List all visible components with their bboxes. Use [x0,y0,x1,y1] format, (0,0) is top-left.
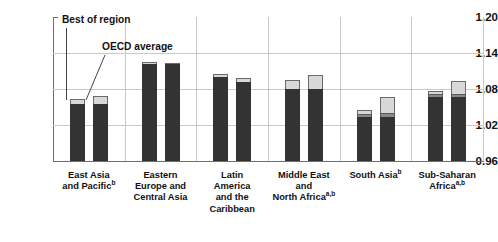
annotation-leader-lines [0,0,498,242]
chart-container: 1.201.141.081.020.96 East Asiaand Pacifi… [0,0,498,242]
